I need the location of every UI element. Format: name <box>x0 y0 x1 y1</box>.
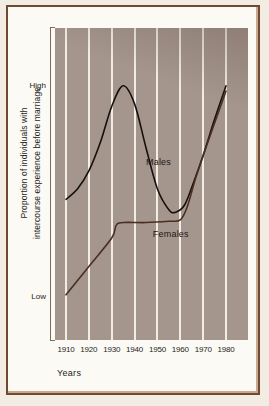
series-line-females <box>66 91 226 295</box>
y-axis-title-line-2: intercourse experience before marriage <box>31 68 44 258</box>
chart-page: HighLow Proportion of individuals with i… <box>0 0 269 406</box>
y-axis-title-line-1: Proportion of individuals with <box>18 68 31 258</box>
series-line-males <box>66 86 226 213</box>
plot-area: MalesFemales <box>55 28 248 340</box>
series-label-females: Females <box>153 229 189 239</box>
x-tick-label-1910: 1910 <box>58 345 75 354</box>
x-tick-label-1920: 1920 <box>80 345 97 354</box>
x-tick-label-1980: 1980 <box>218 345 235 354</box>
x-tick-label-1960: 1960 <box>172 345 189 354</box>
x-axis-title: Years <box>57 368 81 378</box>
y-tick-label-low: Low <box>31 292 46 301</box>
x-tick-label-1950: 1950 <box>149 345 166 354</box>
series-curves <box>55 28 248 340</box>
x-tick-label-1930: 1930 <box>103 345 120 354</box>
x-tick-label-1940: 1940 <box>126 345 143 354</box>
series-label-males: Males <box>146 157 171 167</box>
y-axis-title: Proportion of individuals with intercour… <box>18 68 44 258</box>
x-tick-label-1970: 1970 <box>195 345 212 354</box>
x-axis-ticks: 19101920193019401950196019701980 <box>0 345 269 359</box>
